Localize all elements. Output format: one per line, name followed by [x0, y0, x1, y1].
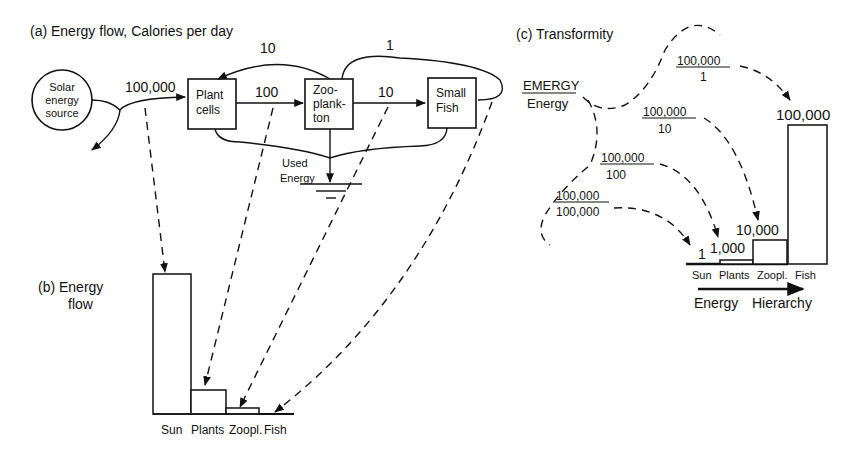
cat-c-sun: Sun — [692, 269, 712, 281]
fraction-fish-num: 100,000 — [677, 54, 721, 68]
fraction-zoopl: 100,000 10 — [642, 105, 696, 136]
cat-c-plants: Plants — [719, 269, 750, 281]
solar-label-1: Solar — [49, 81, 75, 93]
plant-label-1: Plant — [196, 88, 224, 102]
flow-plant-zoo: 100 — [255, 84, 279, 100]
flow-solar-plant: 100,000 — [125, 79, 176, 95]
fraction-sun-num: 100,000 — [556, 189, 600, 203]
zoo-label-3: ton — [313, 111, 330, 125]
plant-label-2: cells — [196, 103, 220, 117]
fraction-plants-den: 100 — [606, 168, 626, 182]
used-label-2: Energy — [280, 172, 315, 184]
swirl-lower — [541, 100, 597, 245]
zoo-to-plant-feedback-arrow — [218, 65, 330, 80]
fraction-sun: 100,000 100,000 — [555, 189, 609, 219]
zooplankton-node: Zoo- plank- ton — [305, 79, 353, 129]
cat-b-zoopl: Zoopl. — [229, 423, 262, 437]
solar-source-node: Solar energy source — [32, 70, 92, 130]
fish-label-1: Small — [436, 86, 466, 100]
axis-label-energy: Energy — [694, 295, 738, 311]
flow-zoo-fish: 10 — [378, 84, 394, 100]
ratio-numerator: EMERGY — [523, 78, 580, 93]
zoo-label-2: plank- — [313, 97, 346, 111]
bar-c-fish — [788, 125, 827, 264]
fish-label-2: Fish — [436, 101, 459, 115]
fraction-sun-den: 100,000 — [556, 205, 600, 219]
panel-b-title-2: flow — [68, 296, 94, 312]
arrow-fraction-plants — [660, 164, 718, 237]
cat-b-fish: Fish — [264, 423, 287, 437]
bar-c-label-zoopl: 10,000 — [736, 222, 779, 238]
arrow-fraction-fish — [740, 66, 790, 100]
flow-fish-zoo: 1 — [386, 37, 394, 53]
arrow-fraction-sun — [614, 208, 690, 245]
link-plant-plants-bar — [205, 108, 273, 385]
bar-c-label-plants: 1,000 — [710, 240, 745, 256]
fraction-fish-den: 1 — [700, 70, 707, 84]
cat-c-fish: Fish — [795, 269, 816, 281]
fraction-fish: 100,000 1 — [676, 54, 730, 84]
bar-c-label-sun: 1 — [698, 246, 706, 262]
fraction-zoopl-num: 100,000 — [643, 105, 687, 119]
axis-label-hierarchy: Hierarchy — [752, 295, 812, 311]
panel-c-transformity: (c) Transformity EMERGY Energy 100,000 1… — [516, 25, 830, 311]
cat-c-zoopl: Zoopl. — [757, 269, 788, 281]
small-fish-node: Small Fish — [428, 78, 476, 128]
fish-to-zoo-feedback-loop — [342, 56, 502, 100]
panel-b-title-1: (b) Energy — [38, 279, 103, 295]
solar-label-3: source — [45, 107, 78, 119]
link-solar-sun-bar — [145, 108, 165, 272]
plant-heat-line — [215, 129, 330, 158]
panel-b-energy-flow-chart: (b) Energy flow Sun Plants Zoopl. Fish — [38, 274, 294, 437]
solar-outflow-arrow — [92, 110, 120, 150]
heat-sink-icon — [300, 184, 362, 198]
panel-a-energy-flow: (a) Energy flow, Calories per day Solar … — [30, 23, 502, 412]
fraction-zoopl-den: 10 — [658, 122, 672, 136]
fraction-plants-num: 100,000 — [601, 151, 645, 165]
cat-b-plants: Plants — [191, 423, 224, 437]
panel-c-title: (c) Transformity — [516, 26, 613, 42]
arrow-fraction-zoopl — [704, 118, 758, 220]
flow-zoo-plant: 10 — [260, 40, 276, 56]
cat-b-sun: Sun — [161, 423, 182, 437]
solar-to-plant-arrow — [92, 97, 185, 110]
ratio-denominator: Energy — [527, 96, 569, 111]
bar-c-plants — [720, 260, 753, 264]
plant-cells-node: Plant cells — [188, 79, 236, 129]
solar-label-2: energy — [45, 94, 79, 106]
fraction-plants: 100,000 100 — [600, 151, 654, 182]
zoo-label-1: Zoo- — [313, 83, 338, 97]
bar-sun — [153, 274, 191, 414]
energy-hierarchy-figure: (a) Energy flow, Calories per day Solar … — [0, 0, 868, 449]
bar-zoopl — [226, 408, 259, 414]
bar-plants — [191, 390, 226, 414]
bar-c-zoopl — [753, 240, 787, 264]
fish-heat-line — [330, 128, 447, 158]
panel-a-title: (a) Energy flow, Calories per day — [30, 23, 233, 39]
used-label-1: Used — [282, 157, 308, 169]
bar-c-label-fish: 100,000 — [776, 106, 830, 123]
